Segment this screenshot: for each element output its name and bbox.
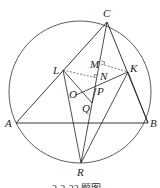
label-M: M bbox=[89, 58, 100, 70]
geometry-figure: C A B L K M N P O Q R 2-2-22 题图 bbox=[0, 0, 160, 188]
segment-LQ bbox=[63, 70, 92, 103]
label-N: N bbox=[99, 70, 108, 82]
segment-LN-dashed bbox=[63, 70, 97, 78]
label-Q: Q bbox=[82, 102, 90, 114]
segment-LR bbox=[63, 70, 81, 163]
figure-caption: 2-2-22 题图 bbox=[52, 183, 101, 188]
segment-PQ bbox=[92, 88, 96, 103]
label-C: C bbox=[103, 7, 111, 19]
label-R: R bbox=[76, 166, 84, 178]
label-B: B bbox=[150, 117, 157, 129]
label-A: A bbox=[4, 117, 12, 129]
segment-AC bbox=[16, 22, 107, 123]
label-P: P bbox=[96, 85, 104, 97]
label-K: K bbox=[129, 62, 138, 74]
segment-KR bbox=[81, 72, 128, 163]
circumcircle bbox=[9, 21, 151, 163]
label-L: L bbox=[52, 64, 59, 76]
label-O: O bbox=[69, 88, 77, 100]
segment-KB bbox=[128, 72, 148, 123]
